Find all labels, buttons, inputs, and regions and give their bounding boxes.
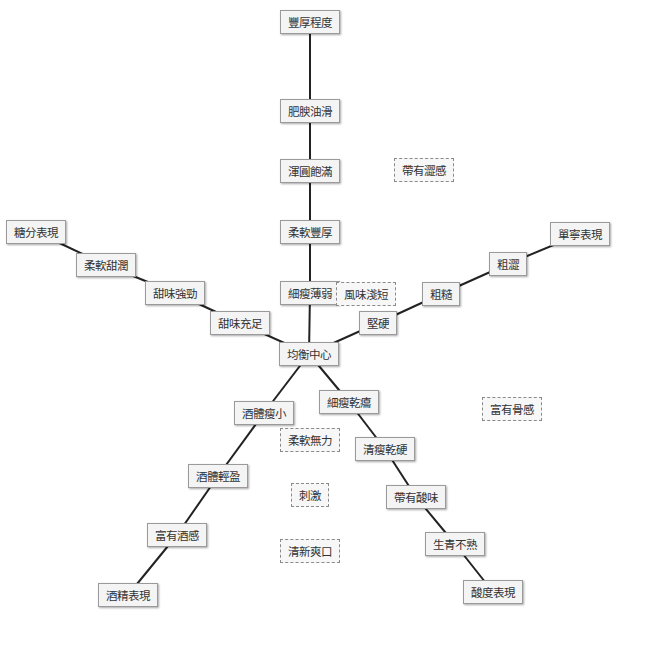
node-soft-weak: 柔軟無力 — [280, 428, 340, 452]
node-alcohol: 酒精表現 — [98, 583, 158, 607]
node-irritating: 刺激 — [291, 483, 329, 507]
node-round-full: 渾圓飽滿 — [280, 159, 340, 183]
node-ample-sweet: 甜味充足 — [210, 311, 270, 335]
wine-structure-diagram: 豐厚程度肥腴油滑渾圓飽滿柔軟豐厚細瘦薄弱均衡中心帶有澀感風味淺短糖分表現柔軟甜潤… — [0, 0, 654, 646]
node-center: 均衡中心 — [279, 342, 339, 366]
node-sugar: 糖分表現 — [6, 220, 66, 244]
node-thin-dry: 細瘦乾癟 — [319, 390, 379, 414]
node-fat-smooth: 肥腴油滑 — [280, 99, 340, 123]
node-tannin: 單寧表現 — [550, 222, 610, 246]
node-coarse: 粗糙 — [422, 282, 460, 306]
node-fresh: 清新爽口 — [280, 539, 340, 563]
node-short-finish: 風味淺短 — [336, 282, 396, 306]
node-sour: 帶有酸味 — [386, 485, 446, 509]
node-hard: 堅硬 — [359, 311, 397, 335]
node-body-extent: 豐厚程度 — [280, 10, 340, 34]
node-soft-sweet: 柔軟甜潤 — [76, 253, 136, 277]
node-soft-rich: 柔軟豐厚 — [280, 220, 340, 244]
node-thin-weak: 細瘦薄弱 — [280, 281, 340, 305]
node-astringent: 帶有澀感 — [394, 158, 454, 182]
node-strong-sweet: 甜味強勁 — [145, 281, 205, 305]
node-light-body: 酒體輕盈 — [188, 464, 248, 488]
node-rough-astr: 粗澀 — [489, 252, 527, 276]
node-acidity: 酸度表現 — [463, 580, 523, 604]
node-alcoholic: 富有酒感 — [147, 523, 207, 547]
node-unripe: 生青不熟 — [425, 532, 485, 556]
node-thin-body: 酒體瘦小 — [234, 401, 294, 425]
node-lean-hard: 清瘦乾硬 — [355, 437, 415, 461]
node-bony: 富有骨感 — [482, 397, 542, 421]
